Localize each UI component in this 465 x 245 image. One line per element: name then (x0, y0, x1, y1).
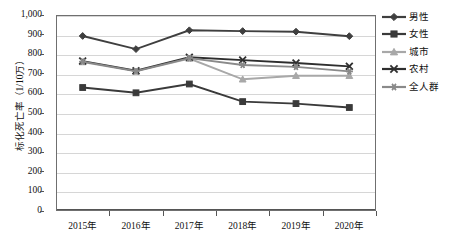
legend-label: 全人群 (407, 82, 439, 92)
y-tick-label: 300 (2, 147, 42, 157)
diamond-marker-icon (381, 11, 407, 23)
x-tick-mark (216, 211, 217, 216)
y-tick-mark (40, 152, 44, 153)
y-tick-mark (40, 191, 44, 192)
x-tick-mark (109, 211, 110, 216)
y-tick-label: 0 (2, 206, 42, 216)
y-tick-label: 800 (2, 49, 42, 59)
chart-legend: 男性女性城市农村全人群 (381, 8, 463, 96)
y-tick-label: 900 (2, 30, 42, 40)
legend-item-女性[interactable]: 女性 (381, 26, 463, 44)
y-tick-mark (40, 54, 44, 55)
y-tick-mark (40, 113, 44, 114)
x-tick-mark (163, 211, 164, 216)
legend-item-男性[interactable]: 男性 (381, 8, 463, 26)
y-tick-mark (40, 93, 44, 94)
y-tick-mark (40, 15, 44, 16)
y-tick-label: 600 (2, 89, 42, 99)
x-axis-tick-labels: 2015年2016年2017年2018年2019年2020年 (56, 15, 376, 55)
legend-item-城市[interactable]: 城市 (381, 43, 463, 61)
y-tick-label: 700 (2, 69, 42, 79)
chart-container: 标化死亡率（1/10万） 010020030040050060070080090… (0, 0, 465, 245)
legend-label: 男性 (407, 12, 429, 22)
legend-item-全人群[interactable]: 全人群 (381, 78, 463, 96)
y-tick-label: 200 (2, 167, 42, 177)
x-tick-label: 2016年 (106, 218, 166, 232)
star-marker-icon (381, 81, 407, 93)
x-tick-mark (323, 211, 324, 216)
y-tick-mark (40, 171, 44, 172)
legend-label: 城市 (407, 47, 429, 57)
legend-label: 女性 (407, 29, 429, 39)
x-tick-label: 2017年 (159, 218, 219, 232)
x-tick-label: 2019年 (266, 218, 326, 232)
cross-marker-icon (381, 63, 407, 75)
series-女性 (80, 81, 352, 110)
x-tick-label: 2015年 (53, 218, 113, 232)
y-tick-mark (40, 73, 44, 74)
legend-label: 农村 (407, 64, 429, 74)
y-tick-mark (40, 211, 44, 212)
square-marker-icon (381, 28, 407, 40)
y-tick-mark (40, 34, 44, 35)
y-axis-tick-labels: 01002003004005006007008009001,000 (0, 0, 42, 245)
x-tick-label: 2018年 (213, 218, 273, 232)
y-tick-label: 100 (2, 187, 42, 197)
y-tick-label: 1,000 (2, 10, 42, 20)
y-tick-mark (40, 132, 44, 133)
y-tick-label: 400 (2, 128, 42, 138)
x-tick-mark (269, 211, 270, 216)
y-tick-label: 500 (2, 108, 42, 118)
x-tick-label: 2020年 (319, 218, 379, 232)
x-tick-mark (376, 211, 377, 216)
legend-item-农村[interactable]: 农村 (381, 61, 463, 79)
series-农村 (79, 54, 352, 74)
triangle-marker-icon (381, 46, 407, 58)
